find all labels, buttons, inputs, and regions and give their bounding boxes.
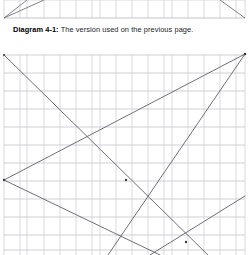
previous-figure-svg [0,0,250,21]
vertex-left-edge [3,179,5,181]
strip-grid [4,0,245,18]
vertex-center-crossing [125,179,127,181]
main-figure [0,44,250,255]
strip-diagonals [4,0,245,18]
previous-figure-strip [0,0,250,21]
vertex-top-right [244,53,247,56]
caption-text: The version used on the previous page. [59,25,194,34]
main-figure-svg [0,44,250,255]
vertex-top-left [3,54,5,56]
figure-caption: Diagram 4-1: The version used on the pre… [13,23,243,37]
caption-label: Diagram 4-1: [13,25,59,34]
diagram-page: Diagram 4-1: The version used on the pre… [0,0,250,255]
vertex-lower-right-crossing [185,241,187,243]
figure-background [0,44,250,255]
